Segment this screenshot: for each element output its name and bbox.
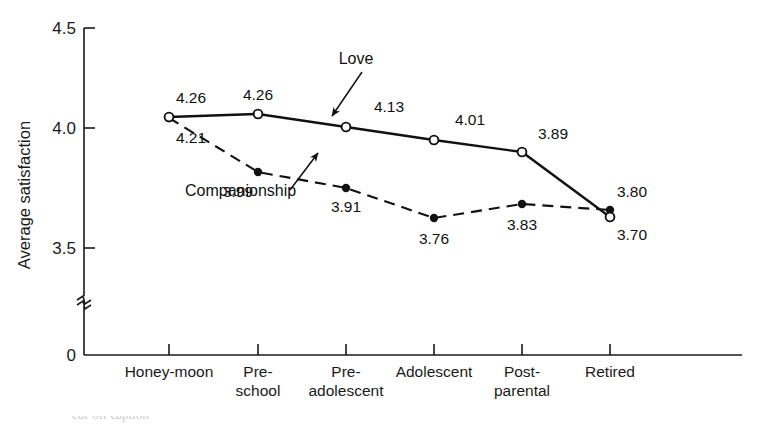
companionship-point-pre-school <box>254 168 262 176</box>
love-value-label-2: 4.13 <box>374 98 404 115</box>
love-value-label-0: 4.26 <box>176 89 206 106</box>
love-point-retired <box>606 213 615 222</box>
companionship-value-label-2: 3.91 <box>331 198 361 215</box>
love-point-honey-moon <box>165 113 174 122</box>
caption-strip: cut-off caption <box>0 416 774 426</box>
companionship-value-label-0: 4.21 <box>176 129 206 146</box>
x-label-post-parental-line1: Post- <box>504 363 540 380</box>
x-label-pre-adolescent-line1: Pre- <box>331 363 360 380</box>
annotation-love-label: Love <box>339 50 374 67</box>
annotation-companionship: Companionship <box>185 153 318 199</box>
annotation-companionship-arrow <box>290 153 318 190</box>
love-value-label-5: 3.70 <box>617 226 648 243</box>
figure-caption: cut-off caption <box>72 416 149 423</box>
companionship-value-label-5: 3.80 <box>617 183 648 200</box>
love-value-label-1: 4.26 <box>243 86 273 103</box>
y-tick-label-4-0: 4.0 <box>52 119 76 138</box>
companionship-point-pre-adolescent <box>342 184 350 192</box>
love-point-adolescent <box>430 136 439 145</box>
companionship-point-adolescent <box>430 214 438 222</box>
x-label-post-parental-line2: parental <box>494 382 550 399</box>
companionship-value-label-3: 3.76 <box>419 230 449 247</box>
x-label-retired-line1: Retired <box>585 363 635 380</box>
line-chart: 4.5 4.0 3.5 0 Average satisfaction Honey… <box>0 0 774 426</box>
x-label-pre-school-line2: school <box>236 382 281 399</box>
annotation-love-arrow <box>332 72 362 116</box>
y-tick-label-0: 0 <box>67 346 76 365</box>
x-label-pre-adolescent-line2: adolescent <box>309 382 385 399</box>
y-tick-label-3-5: 3.5 <box>52 239 76 258</box>
love-value-label-3: 4.01 <box>455 111 485 128</box>
x-label-adolescent-line1: Adolescent <box>396 363 473 380</box>
annotation-companionship-label: Companionship <box>185 182 296 199</box>
figure-container: 4.5 4.0 3.5 0 Average satisfaction Honey… <box>0 0 774 426</box>
y-axis-title: Average satisfaction <box>15 121 33 269</box>
companionship-point-post-parental <box>518 200 526 208</box>
x-label-pre-school-line1: Pre- <box>243 363 272 380</box>
y-tick-label-4-5: 4.5 <box>52 19 76 38</box>
x-axis: Honey-moon Pre- school Pre- adolescent A… <box>84 344 742 399</box>
annotation-love: Love <box>332 50 373 116</box>
companionship-value-label-4: 3.83 <box>507 216 537 233</box>
y-axis: 4.5 4.0 3.5 0 Average satisfaction <box>15 19 95 365</box>
love-point-pre-adolescent <box>342 123 351 132</box>
love-point-pre-school <box>254 110 263 119</box>
love-value-label-4: 3.89 <box>538 125 568 142</box>
x-label-honey-moon-line1: Honey-moon <box>125 363 214 380</box>
love-point-post-parental <box>518 148 527 157</box>
